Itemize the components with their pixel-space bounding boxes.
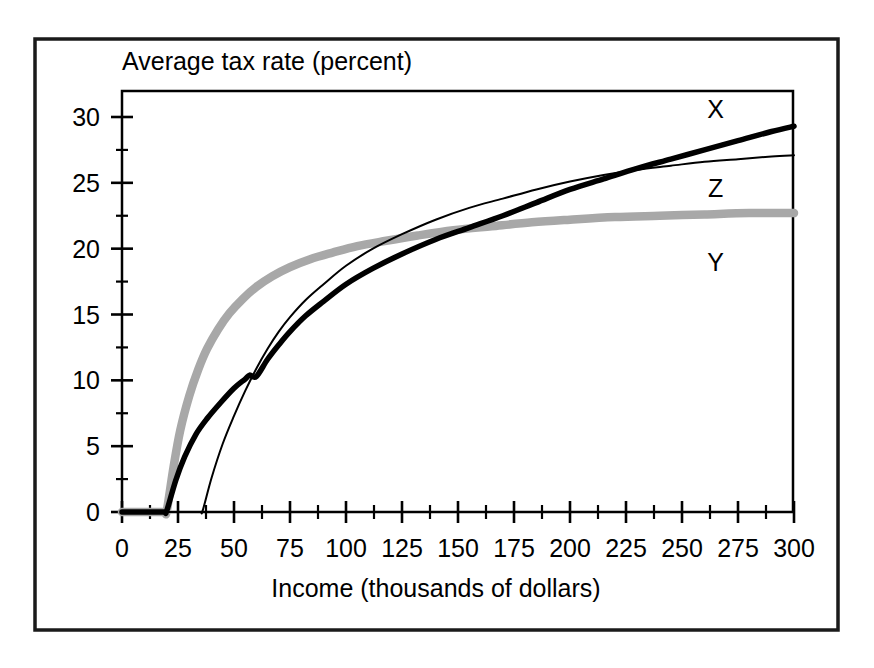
y-axis-tick-label: 5 <box>86 432 100 460</box>
x-axis-tick-label: 175 <box>493 534 535 562</box>
x-axis-tick-label: 75 <box>276 534 304 562</box>
x-axis-tick-label: 275 <box>717 534 759 562</box>
x-axis-tick-label: 100 <box>325 534 367 562</box>
series-labels: XZY <box>707 95 724 276</box>
y-axis-tick-label: 20 <box>72 235 100 263</box>
x-axis-tick-label: 25 <box>164 534 192 562</box>
series-label-z: Z <box>708 174 723 202</box>
tax-rate-chart: Average tax rate (percent) 051015202530 … <box>0 0 874 668</box>
y-axis-tick-label: 25 <box>72 169 100 197</box>
series-label-y: Y <box>707 248 724 276</box>
y-axis-tick-label: 30 <box>72 103 100 131</box>
chart-bottom-title: Income (thousands of dollars) <box>271 574 600 602</box>
chart-top-title: Average tax rate (percent) <box>122 47 412 75</box>
y-axis-tick-label: 10 <box>72 366 100 394</box>
y-axis-tick-label: 0 <box>86 498 100 526</box>
x-axis-tick-label: 150 <box>437 534 479 562</box>
y-axis-tick-label: 15 <box>72 301 100 329</box>
x-axis-tick-label: 0 <box>115 534 129 562</box>
x-axis-tick-label: 300 <box>773 534 815 562</box>
figure-root: Average tax rate (percent) 051015202530 … <box>0 0 874 668</box>
x-axis-tick-label: 200 <box>549 534 591 562</box>
x-axis-tick-label: 125 <box>381 534 423 562</box>
x-axis-tick-label: 250 <box>661 534 703 562</box>
x-axis-tick-label: 50 <box>220 534 248 562</box>
x-axis-tick-label: 225 <box>605 534 647 562</box>
series-label-x: X <box>707 95 724 123</box>
